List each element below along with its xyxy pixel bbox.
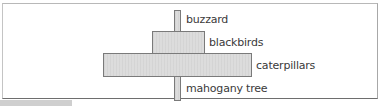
label-blackbirds: blackbirds [209,37,263,49]
label-mahogany-tree: mahogany tree [186,83,267,95]
bar-buzzard [174,10,181,32]
label-caterpillars: caterpillars [256,60,315,72]
bar-blackbirds [152,31,205,54]
label-buzzard: buzzard [186,14,228,26]
bottom-tab-bar [0,100,72,106]
bar-caterpillars [103,53,252,77]
bar-mahogany-tree [174,76,181,101]
